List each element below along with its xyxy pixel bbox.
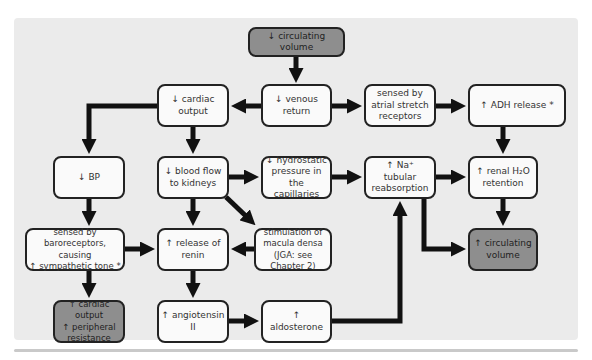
node-cardiac-output-resistance: ↑ cardiac output ↑ peripheral resistance: [53, 300, 125, 343]
node-aldosterone: ↑ aldosterone: [261, 300, 332, 343]
arrow-bloodflow-macula: [226, 197, 249, 219]
node-cardiac-output: ↓ cardiac output: [157, 84, 229, 127]
node-blood-flow: ↓ blood flow to kidneys: [157, 156, 229, 199]
node-renin: ↑ release of renin: [157, 228, 229, 271]
node-macula-densa: stimulation of macula densa (JGA: see Ch…: [254, 228, 332, 271]
node-adh-release: ↑ ADH release *: [468, 84, 566, 127]
arrow-aldosterone-na: [332, 210, 400, 321]
node-angiotensin: ↑ angiotensin II: [157, 300, 229, 343]
node-circulating-volume-increase: ↑ circulating volume: [468, 228, 538, 271]
node-atrial-stretch: sensed by atrial stretch receptors: [364, 84, 436, 127]
node-circulating-volume-decrease: ↓ circulating volume: [248, 27, 345, 57]
arrow-na-circvolup: [424, 199, 457, 249]
node-renal-h2o: ↑ renal H₂O retention: [468, 156, 538, 199]
arrow-cardiac-bp: [89, 106, 157, 145]
node-na-reabsorption: ↑ Na⁺ tubular reabsorption: [364, 156, 436, 199]
node-hydrostatic: ↓ hydrostatic pressure in the capillarie…: [261, 156, 332, 199]
node-baroreceptors: sensed by baroreceptors, causing ↑ sympa…: [25, 228, 125, 271]
node-venous-return: ↓ venous return: [261, 84, 332, 127]
caption-cutoff: [14, 346, 578, 354]
node-bp: ↓ BP: [53, 156, 125, 199]
